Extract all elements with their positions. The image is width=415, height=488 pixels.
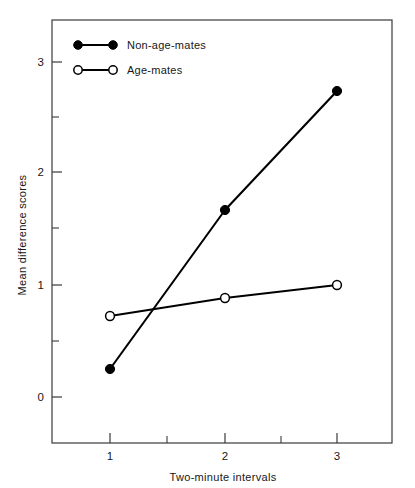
y-tick-label-3: 3 [38, 56, 44, 68]
series-non-age-mates [105, 86, 341, 373]
legend-entry-non-age-mates: Non-age-mates [74, 39, 207, 51]
y-tick-label-0: 0 [38, 391, 44, 403]
data-point-non-age-mates-3 [332, 86, 341, 95]
data-point-age-mates-2 [221, 294, 230, 303]
y-axis-title: Mean difference scores [16, 174, 28, 295]
data-point-non-age-mates-1 [105, 364, 114, 373]
y-tick-label-2: 2 [38, 166, 44, 178]
legend-marker-open-circle-icon [74, 66, 82, 74]
series-age-mates [106, 281, 342, 321]
legend-entry-age-mates: Age-mates [74, 64, 183, 76]
series-non-age-mates-line [110, 91, 337, 369]
data-point-age-mates-1 [106, 312, 115, 321]
chart-legend: Non-age-mates Age-mates [74, 39, 207, 76]
legend-marker-open-circle-icon-2 [109, 66, 117, 74]
y-tick-label-1: 1 [38, 279, 44, 291]
legend-marker-filled-circle-icon-2 [109, 41, 118, 50]
legend-label-non-age-mates: Non-age-mates [127, 39, 206, 51]
x-axis-ticks [110, 433, 337, 443]
y-axis-ticks [52, 62, 62, 397]
figure-container: 3 2 1 0 Mean difference scores 1 2 3 Two… [0, 0, 415, 488]
legend-marker-filled-circle-icon [74, 41, 83, 50]
data-point-age-mates-3 [333, 281, 342, 290]
line-chart: 3 2 1 0 Mean difference scores 1 2 3 Two… [0, 0, 415, 488]
x-tick-label-3: 3 [334, 450, 340, 462]
x-tick-label-1: 1 [107, 450, 113, 462]
x-tick-label-2: 2 [222, 450, 228, 462]
data-point-non-age-mates-2 [220, 205, 229, 214]
plot-frame [52, 20, 392, 443]
x-axis-title: Two-minute intervals [170, 471, 277, 483]
legend-label-age-mates: Age-mates [127, 64, 183, 76]
